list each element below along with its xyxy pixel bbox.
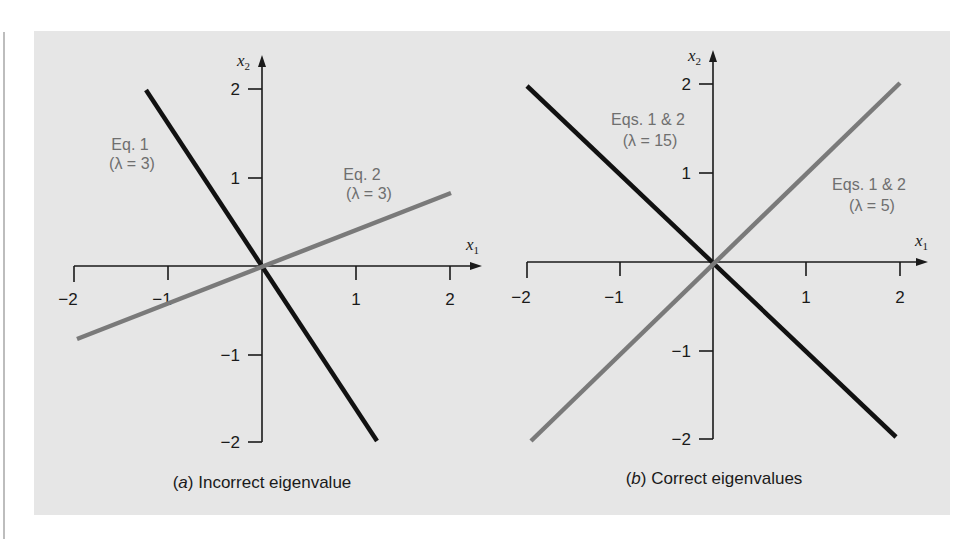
chart-b-lambda15-label: Eqs. 1 & 2	[611, 111, 685, 128]
chart-a-y-arrow-icon	[258, 55, 266, 67]
chart-a-x-arrow-icon	[470, 262, 482, 270]
chart-b-y-axis-label: x2	[687, 46, 701, 67]
chart-b-ytick-label: −1	[672, 342, 691, 361]
chart-b-ytick-label: 2	[682, 75, 691, 94]
chart-a-xtick-label: 2	[445, 290, 454, 309]
chart-b-lambda5-sublabel: (λ = 5)	[849, 197, 895, 214]
chart-b-x-arrow-icon	[916, 258, 928, 266]
chart-a-xtick-label: −2	[58, 290, 77, 309]
chart-a-ytick-label: −1	[221, 346, 240, 365]
chart-b-xtick-label: 1	[801, 288, 810, 307]
chart-b-xtick-label: −1	[604, 288, 623, 307]
chart-b-ytick-label: 1	[682, 164, 691, 183]
chart-b: −2 −1 1 2 2 1 −1 −2 x2 x1 Eqs. 1 & 2 (λ …	[511, 46, 928, 488]
chart-b-lambda15-sublabel: (λ = 15)	[623, 132, 678, 149]
chart-a-eq2-sublabel: (λ = 3)	[346, 185, 392, 202]
chart-a-y-axis-label: x2	[236, 51, 250, 72]
chart-a-caption: (a) Incorrect eigenvalue	[173, 473, 352, 492]
chart-b-lambda5-label: Eqs. 1 & 2	[832, 176, 906, 193]
chart-a-ytick-label: 2	[231, 80, 240, 99]
chart-a-eq1-sublabel: (λ = 3)	[109, 155, 155, 172]
chart-a: −2 −1 1 2 2 1 −1 −2 x2 x1 Eq. 1 (λ = 3) …	[58, 51, 482, 492]
chart-a-ytick-label: 1	[231, 169, 240, 188]
chart-a-x-axis-label: x1	[465, 235, 479, 256]
chart-a-eq2-label: Eq. 2	[343, 166, 380, 183]
chart-b-xtick-label: 2	[895, 288, 904, 307]
chart-b-caption: (b) Correct eigenvalues	[626, 469, 803, 488]
chart-b-x-axis-label: x1	[914, 231, 928, 252]
chart-a-eq1-label: Eq. 1	[111, 136, 148, 153]
chart-a-ytick-label: −2	[221, 433, 240, 452]
chart-b-ytick-label: −2	[672, 430, 691, 449]
chart-b-axes	[527, 58, 920, 439]
chart-b-y-arrow-icon	[709, 50, 717, 62]
chart-b-xtick-label: −2	[511, 288, 530, 307]
eigenvalue-figure: −2 −1 1 2 2 1 −1 −2 x2 x1 Eq. 1 (λ = 3) …	[0, 0, 980, 539]
chart-a-axes	[74, 63, 474, 442]
chart-a-xtick-label: 1	[351, 290, 360, 309]
